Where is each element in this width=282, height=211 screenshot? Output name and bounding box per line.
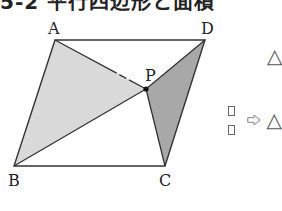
arrow-row: △ bbox=[228, 101, 282, 139]
point-p bbox=[143, 86, 148, 91]
label-p: P bbox=[145, 66, 156, 85]
triangle-dpc bbox=[146, 40, 205, 166]
triangle-symbol-top: △ bbox=[267, 46, 282, 66]
right-arrow-icon bbox=[247, 113, 261, 127]
triangle-symbol-bottom: △ bbox=[267, 110, 282, 130]
label-c: C bbox=[159, 171, 171, 190]
label-d: D bbox=[201, 19, 214, 38]
double-square-icon bbox=[228, 101, 241, 139]
label-a: A bbox=[47, 19, 60, 38]
label-b: B bbox=[8, 171, 20, 190]
